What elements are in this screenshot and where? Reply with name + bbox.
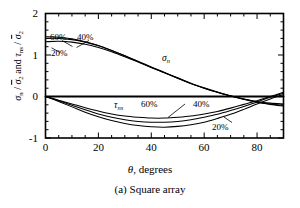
ylabel-sigmabar-2: σ: [12, 34, 23, 39]
annotation-sigma-20: 20%: [51, 49, 68, 58]
ylabel-slash-1: /: [12, 85, 23, 93]
ylabel-tau-sub: ns: [17, 47, 24, 53]
figure-caption: (a) Square array: [0, 183, 300, 195]
x-tick-label-80: 80: [247, 142, 267, 153]
annotation-tau-40: 40%: [193, 100, 210, 109]
ylabel-and: and: [12, 57, 23, 76]
y-axis-label: σn / σ2 and τns / σ2: [12, 0, 24, 136]
annotation-sigma-60: 60%: [50, 33, 67, 42]
x-axis-label: θ, degrees: [0, 163, 300, 175]
x-tick-label-20: 20: [88, 142, 108, 153]
annotation-sigma-40: 40%: [77, 33, 94, 42]
ylabel-slash-2: /: [12, 39, 23, 47]
annotation-tau-ns: τns: [114, 101, 123, 111]
ylabel-tau: τ: [12, 53, 23, 57]
figure-container: 2 1 0 -1 0 20 40 60 80 σn / σ2 and τns /…: [0, 0, 300, 208]
ylabel-sigmabar-1: σ: [12, 80, 23, 85]
ylabel-sigma-sub: n: [17, 92, 24, 95]
x-tick-label-60: 60: [194, 142, 214, 153]
x-tick-label-40: 40: [141, 142, 161, 153]
annotation-tau-subscript: ns: [117, 104, 123, 111]
annotation-sigma-n: σn: [162, 54, 170, 64]
annotation-sigma-subscript: n: [167, 57, 170, 64]
ylabel-sigma: σ: [12, 96, 23, 101]
annotation-tau-60: 60%: [141, 100, 158, 109]
annotation-tau-20: 20%: [212, 123, 229, 132]
x-axis-label-text: , degrees: [133, 163, 172, 175]
x-tick-label-0: 0: [36, 142, 56, 153]
